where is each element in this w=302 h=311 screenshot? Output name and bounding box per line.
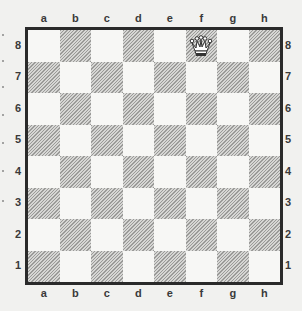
- rank-label-8: 8: [11, 39, 25, 51]
- rank-label-7: 7: [11, 70, 25, 82]
- square-b7[interactable]: [60, 62, 92, 94]
- square-c6[interactable]: [91, 93, 123, 125]
- square-g5[interactable]: [217, 125, 249, 157]
- square-c5[interactable]: [91, 125, 123, 157]
- square-a2[interactable]: [28, 219, 60, 251]
- square-b3[interactable]: [60, 188, 92, 220]
- rank-label-2: 2: [281, 228, 295, 240]
- square-g4[interactable]: [217, 156, 249, 188]
- square-d1[interactable]: [123, 251, 155, 283]
- square-g6[interactable]: [217, 93, 249, 125]
- rank-label-7: 7: [281, 70, 295, 82]
- square-f6[interactable]: [186, 93, 218, 125]
- square-e3[interactable]: [154, 188, 186, 220]
- rank-label-6: 6: [281, 102, 295, 114]
- square-h1[interactable]: [249, 251, 281, 283]
- rank-label-1: 1: [281, 259, 295, 271]
- square-d4[interactable]: [123, 156, 155, 188]
- rank-label-2: 2: [11, 228, 25, 240]
- chess-board: [25, 27, 283, 285]
- rank-label-4: 4: [281, 165, 295, 177]
- square-f1[interactable]: [186, 251, 218, 283]
- file-label-a: a: [37, 287, 51, 299]
- square-d8[interactable]: [123, 30, 155, 62]
- square-g7[interactable]: [217, 62, 249, 94]
- file-label-b: b: [68, 12, 82, 24]
- margin-dots: [2, 30, 6, 220]
- square-f5[interactable]: [186, 125, 218, 157]
- file-label-g: g: [226, 12, 240, 24]
- square-h7[interactable]: [249, 62, 281, 94]
- rank-label-4: 4: [11, 165, 25, 177]
- square-h5[interactable]: [249, 125, 281, 157]
- rank-label-1: 1: [11, 259, 25, 271]
- square-a1[interactable]: [28, 251, 60, 283]
- square-a8[interactable]: [28, 30, 60, 62]
- file-label-e: e: [163, 287, 177, 299]
- square-f3[interactable]: [186, 188, 218, 220]
- square-f2[interactable]: [186, 219, 218, 251]
- square-g3[interactable]: [217, 188, 249, 220]
- square-a6[interactable]: [28, 93, 60, 125]
- square-g1[interactable]: [217, 251, 249, 283]
- square-d5[interactable]: [123, 125, 155, 157]
- square-f8[interactable]: [186, 30, 218, 62]
- rank-label-6: 6: [11, 102, 25, 114]
- square-c3[interactable]: [91, 188, 123, 220]
- file-label-h: h: [257, 12, 271, 24]
- square-d2[interactable]: [123, 219, 155, 251]
- square-c2[interactable]: [91, 219, 123, 251]
- file-label-g: g: [226, 287, 240, 299]
- square-e4[interactable]: [154, 156, 186, 188]
- square-c8[interactable]: [91, 30, 123, 62]
- square-a5[interactable]: [28, 125, 60, 157]
- rank-label-3: 3: [281, 196, 295, 208]
- rank-label-5: 5: [11, 133, 25, 145]
- square-b2[interactable]: [60, 219, 92, 251]
- square-f4[interactable]: [186, 156, 218, 188]
- square-e1[interactable]: [154, 251, 186, 283]
- square-b6[interactable]: [60, 93, 92, 125]
- square-b5[interactable]: [60, 125, 92, 157]
- rank-label-3: 3: [11, 196, 25, 208]
- rank-label-5: 5: [281, 133, 295, 145]
- square-c1[interactable]: [91, 251, 123, 283]
- square-e8[interactable]: [154, 30, 186, 62]
- square-g2[interactable]: [217, 219, 249, 251]
- square-h6[interactable]: [249, 93, 281, 125]
- square-h8[interactable]: [249, 30, 281, 62]
- square-h3[interactable]: [249, 188, 281, 220]
- file-label-e: e: [163, 12, 177, 24]
- square-a7[interactable]: [28, 62, 60, 94]
- file-label-h: h: [257, 287, 271, 299]
- file-label-a: a: [37, 12, 51, 24]
- square-d6[interactable]: [123, 93, 155, 125]
- file-label-d: d: [131, 287, 145, 299]
- square-f7[interactable]: [186, 62, 218, 94]
- square-b4[interactable]: [60, 156, 92, 188]
- rank-label-8: 8: [281, 39, 295, 51]
- square-h4[interactable]: [249, 156, 281, 188]
- square-h2[interactable]: [249, 219, 281, 251]
- square-g8[interactable]: [217, 30, 249, 62]
- square-a3[interactable]: [28, 188, 60, 220]
- square-e7[interactable]: [154, 62, 186, 94]
- square-e6[interactable]: [154, 93, 186, 125]
- square-c4[interactable]: [91, 156, 123, 188]
- white-queen-icon[interactable]: [186, 30, 218, 62]
- square-b1[interactable]: [60, 251, 92, 283]
- file-label-c: c: [100, 287, 114, 299]
- square-d3[interactable]: [123, 188, 155, 220]
- file-label-f: f: [194, 287, 208, 299]
- square-c7[interactable]: [91, 62, 123, 94]
- square-a4[interactable]: [28, 156, 60, 188]
- square-b8[interactable]: [60, 30, 92, 62]
- file-label-c: c: [100, 12, 114, 24]
- square-e2[interactable]: [154, 219, 186, 251]
- square-e5[interactable]: [154, 125, 186, 157]
- file-label-b: b: [68, 287, 82, 299]
- file-label-d: d: [131, 12, 145, 24]
- file-label-f: f: [194, 12, 208, 24]
- square-d7[interactable]: [123, 62, 155, 94]
